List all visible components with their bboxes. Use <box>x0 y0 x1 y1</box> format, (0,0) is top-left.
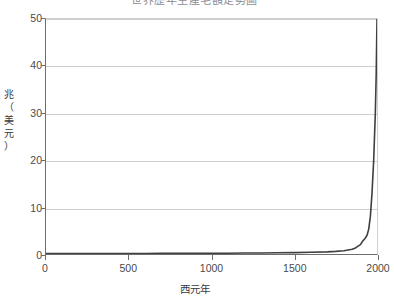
x-axis-tick-label: 1000 <box>190 262 234 275</box>
gdp-curve-path <box>46 19 377 254</box>
x-axis-tick-mark <box>128 255 129 260</box>
x-axis-tick-label: 0 <box>23 262 67 275</box>
x-axis-tick-mark <box>45 255 46 260</box>
y-axis-tick-label: 40 <box>16 60 42 71</box>
x-axis-tick-mark <box>378 255 379 260</box>
chart-title: 世界歷年生產毛額走勢圖 <box>0 0 389 7</box>
x-axis-tick-mark <box>295 255 296 260</box>
x-axis-tick-mark <box>212 255 213 260</box>
y-axis-tick-label: 20 <box>16 155 42 166</box>
y-axis-tick-label: 10 <box>16 202 42 213</box>
x-axis-title: 西元年 <box>0 281 389 296</box>
plot-area <box>45 18 378 255</box>
x-axis-tick-label: 1500 <box>273 262 317 275</box>
y-axis-tick-label: 50 <box>16 13 42 24</box>
x-axis-tick-label: 2000 <box>356 262 394 275</box>
gdp-curve <box>46 19 377 254</box>
y-axis-tick-labels: 01020304050 <box>12 18 42 255</box>
x-axis-tick-label: 500 <box>106 262 150 275</box>
y-axis-tick-label: 0 <box>16 250 42 261</box>
y-axis-tick-label: 30 <box>16 108 42 119</box>
